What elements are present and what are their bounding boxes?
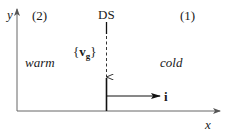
- region-1-temperature: cold: [160, 56, 182, 69]
- y-axis-label: y: [7, 8, 13, 21]
- interface-ds-label: DS: [98, 8, 115, 21]
- normal-vector-label: i: [164, 90, 168, 103]
- velocity-label: {vg}: [73, 45, 97, 63]
- diagram-canvas: y x (2) (1) DS {vg} warm cold i: [0, 0, 232, 133]
- region-1-label: (1): [180, 9, 195, 22]
- region-2-label: (2): [32, 9, 47, 22]
- x-axis-label: x: [205, 118, 211, 131]
- velocity-close-brace: }: [90, 44, 96, 59]
- region-2-temperature: warm: [25, 56, 55, 69]
